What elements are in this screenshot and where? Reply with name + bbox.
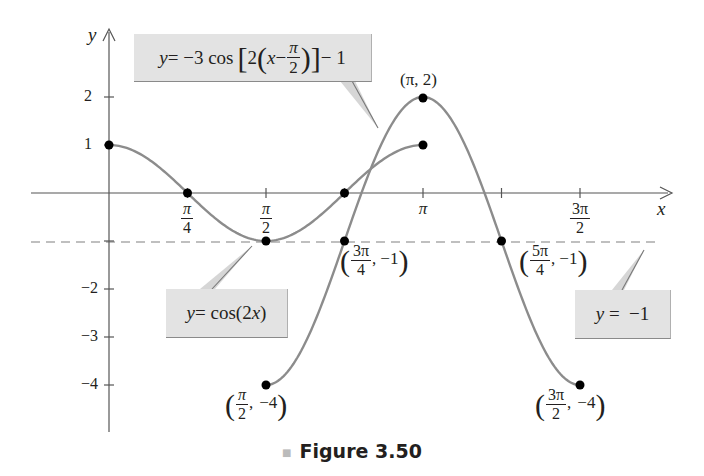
x-tick-pi-over-4: π4 [180,201,194,236]
y-tick-1: 1 [62,135,92,153]
callout-2-pointer [200,246,252,289]
x-tick-3pi-over-2: 3π2 [569,201,591,236]
y-axis-label: y [88,24,96,46]
curve-transformed [266,97,580,385]
figure-caption: ■Figure 3.50 [0,440,704,462]
callout-cos2x: y = cos(2x) [166,289,288,338]
callout-1-pointer [340,81,378,128]
annotation-pi2-neg4: (π2,−4) [225,387,287,422]
callout-y-neg1: y = −1 [575,290,671,339]
x-tick-pi: π [419,199,428,219]
annotation-5pi4-neg1: (5π4,−1) [519,243,587,278]
annotation-peak: (π, 2) [400,70,437,90]
callout-1-pointer-line [352,81,378,128]
annotation-3pi4-neg1: (3π4,−1) [340,243,408,278]
caption-bullet-icon: ■ [282,447,291,458]
callout-transformed-equation: y = −3 cos[2(x − π2)] − 1 [134,34,372,82]
callout-3-pointer-line [622,250,644,290]
callout-2-pointer-line [212,246,252,289]
x-axis-label: x [657,198,665,220]
y-tick-neg3: −3 [68,327,98,345]
callout-3-pointer [612,250,644,290]
annotation-3pi2-neg4: (3π2,−4) [535,387,605,422]
y-tick-neg4: −4 [68,375,98,393]
y-tick-neg2: −2 [68,279,98,297]
y-tick-2: 2 [62,87,92,105]
x-tick-pi-over-2: π2 [259,201,273,236]
